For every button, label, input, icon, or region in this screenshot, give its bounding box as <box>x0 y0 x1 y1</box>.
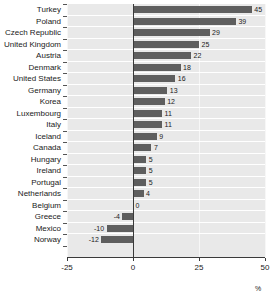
value-axis-tick <box>67 258 68 261</box>
bar-value-label: 11 <box>165 108 172 119</box>
bar-row: 5 <box>67 165 265 177</box>
bar-value-label: 12 <box>167 96 175 107</box>
value-axis-label: 50 <box>261 263 270 272</box>
category-label: United Kingdom <box>0 39 62 51</box>
category-label: Germany <box>0 85 62 97</box>
horizontal-bar-chart: TurkeyPolandCzech RepublicUnited Kingdom… <box>0 0 272 306</box>
category-label: Poland <box>0 16 62 28</box>
value-axis-label: 25 <box>195 263 204 272</box>
bar-row: 45 <box>67 4 265 16</box>
bar-value-label: 11 <box>165 119 172 130</box>
bar-row: 39 <box>67 16 265 28</box>
bar-row: 9 <box>67 131 265 143</box>
bar-row: 25 <box>67 39 265 51</box>
bar-row: 12 <box>67 96 265 108</box>
bar-row: 5 <box>67 177 265 189</box>
bar-value-label: 39 <box>238 16 246 27</box>
bar-value-label: 25 <box>202 39 210 50</box>
bar <box>122 213 133 220</box>
bar-rows: 45392925221816131211119755540-4-10-12 <box>67 4 265 257</box>
plot-area: 45392925221816131211119755540-4-10-12 <box>67 4 265 257</box>
bar-value-label: 4 <box>146 188 150 199</box>
category-label: Iceland <box>0 131 62 143</box>
category-label: Netherlands <box>0 188 62 200</box>
gridline <box>265 4 266 257</box>
bar-value-label: 5 <box>149 177 153 188</box>
category-axis-labels: TurkeyPolandCzech RepublicUnited Kingdom… <box>0 4 62 257</box>
bar <box>133 87 167 94</box>
bar <box>133 41 199 48</box>
bar-value-label: 45 <box>254 4 262 15</box>
value-axis-tick <box>265 258 266 261</box>
bar-row: 29 <box>67 27 265 39</box>
category-label: Hungary <box>0 154 62 166</box>
bar-value-label: 22 <box>194 50 202 61</box>
bar <box>133 52 191 59</box>
bar-row: -12 <box>67 234 265 246</box>
bar-value-label: 18 <box>183 62 191 73</box>
category-label: Austria <box>0 50 62 62</box>
bar-row: 4 <box>67 188 265 200</box>
category-label: Belgium <box>0 200 62 212</box>
category-label: Portugal <box>0 177 62 189</box>
bar-row: 13 <box>67 85 265 97</box>
value-axis-label: -25 <box>61 263 73 272</box>
bar-row: 11 <box>67 108 265 120</box>
bar <box>133 29 210 36</box>
bar-row: 11 <box>67 119 265 131</box>
bar-value-label: -4 <box>114 211 120 222</box>
bar-value-label: 29 <box>212 27 220 38</box>
unit-label: % <box>255 285 261 292</box>
bar-value-label: 0 <box>136 200 140 211</box>
bar-value-label: 7 <box>154 142 158 153</box>
bar-value-label: 5 <box>149 165 153 176</box>
bar-value-label: -10 <box>94 223 104 234</box>
bar <box>133 190 144 197</box>
category-label: Ireland <box>0 165 62 177</box>
bar <box>101 236 133 243</box>
bar <box>107 225 133 232</box>
bar <box>133 167 146 174</box>
bar-row: 7 <box>67 142 265 154</box>
bar-row: 0 <box>67 200 265 212</box>
bar <box>133 133 157 140</box>
value-axis-label: 0 <box>131 263 135 272</box>
category-label: Korea <box>0 96 62 108</box>
bar-row: 16 <box>67 73 265 85</box>
category-label: Norway <box>0 234 62 246</box>
category-label: Mexico <box>0 223 62 235</box>
bar-row: -10 <box>67 223 265 235</box>
bar <box>133 110 162 117</box>
bar <box>133 18 236 25</box>
bar-value-label: 9 <box>159 131 163 142</box>
bar-row: 5 <box>67 154 265 166</box>
category-label: United States <box>0 73 62 85</box>
bar <box>133 6 252 13</box>
bar <box>133 144 151 151</box>
value-axis-tick <box>133 258 134 261</box>
bar-value-label: -12 <box>89 234 99 245</box>
bar <box>133 179 146 186</box>
bar <box>133 156 146 163</box>
bar <box>133 75 175 82</box>
category-label: Czech Republic <box>0 27 62 39</box>
bar <box>133 121 162 128</box>
zero-baseline-axis <box>133 4 134 257</box>
category-label: Canada <box>0 142 62 154</box>
bar-value-label: 5 <box>149 154 153 165</box>
bar-row: 18 <box>67 62 265 74</box>
bar <box>133 98 165 105</box>
bar-row: 22 <box>67 50 265 62</box>
bar-row: -4 <box>67 211 265 223</box>
value-axis-line <box>67 257 265 258</box>
category-label: Italy <box>0 119 62 131</box>
category-label: Greece <box>0 211 62 223</box>
bar-value-label: 16 <box>178 73 186 84</box>
bar-value-label: 13 <box>170 85 178 96</box>
category-label: Luxembourg <box>0 108 62 120</box>
category-label: Denmark <box>0 62 62 74</box>
value-axis-tick <box>199 258 200 261</box>
category-label: Turkey <box>0 4 62 16</box>
bar <box>133 64 181 71</box>
